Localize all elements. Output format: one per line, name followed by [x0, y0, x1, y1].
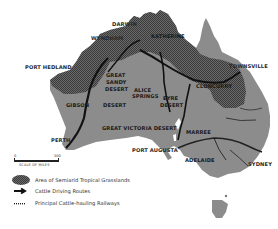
label-perth: PERTH	[51, 138, 71, 143]
legend-item-routes: Cattle Driving Routes	[35, 188, 90, 194]
label-gibson-desert: DESERT	[103, 103, 126, 108]
scale-tick-start	[14, 158, 15, 162]
legend-item-railways: Principal Cattle-hauling Railways	[35, 200, 120, 206]
scale-title: SCALE OF MILES	[19, 163, 50, 167]
label-eyre-1: EYRE	[163, 96, 178, 101]
legend-label-grassland: Area of Semiarid Tropical Grasslands	[35, 177, 130, 183]
legend-grassland-swatch	[12, 175, 30, 185]
legend-label-routes: Cattle Driving Routes	[35, 188, 90, 194]
label-adelaide: ADELAIDE	[185, 158, 215, 163]
label-great-victoria: GREAT VICTORIA DESERT	[102, 126, 177, 131]
scale-tick-end	[58, 158, 59, 162]
label-marree: MARREE	[186, 130, 211, 135]
label-eyre-2: DESERT	[160, 103, 183, 108]
legend-railway-line	[14, 203, 25, 204]
label-port-augusta: PORT AUGUSTA	[132, 148, 178, 153]
island-dot	[225, 195, 227, 197]
label-great-sandy-3: DESERT	[105, 87, 128, 92]
australia-map	[0, 0, 278, 229]
legend-item-grassland: Area of Semiarid Tropical Grasslands	[35, 177, 130, 183]
label-sydney: SYDNEY	[248, 162, 272, 167]
scale-line	[14, 160, 59, 162]
label-great-sandy-2: SANDY	[106, 80, 126, 85]
label-darwin: DARWIN	[112, 22, 137, 27]
tasmania	[212, 200, 228, 218]
label-townsville: TOWNSVILLE	[229, 64, 268, 69]
legend-label-railways: Principal Cattle-hauling Railways	[35, 200, 120, 206]
label-wyndham: WYNDHAM	[91, 36, 123, 41]
label-great-sandy-1: GREAT	[106, 73, 125, 78]
legend-route-arrow	[14, 189, 25, 194]
label-alice-springs-2: SPRINGS	[132, 94, 159, 99]
label-katherine: KATHERINE	[151, 34, 185, 39]
label-gibson: GIBSON	[66, 103, 89, 108]
label-cloncurry: CLONCURRY	[196, 84, 232, 89]
label-port-hedland: PORT HEDLAND	[25, 65, 72, 70]
